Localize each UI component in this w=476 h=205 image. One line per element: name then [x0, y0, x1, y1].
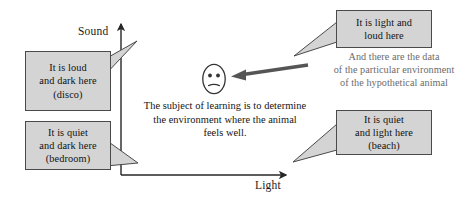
caption-line-1: The subject of learning is to determine — [141, 99, 309, 113]
callout-beach-line-2: and light here — [355, 126, 413, 139]
callout-beach-line-1: It is quiet — [364, 113, 404, 126]
diagram-canvas: Sound Light It is loud and dark here (di… — [0, 0, 476, 205]
callout-light-and-loud-line-1: It is light and — [356, 16, 412, 29]
callout-bedroom[interactable]: It is quiet and dark here (bedroom) — [25, 121, 111, 170]
x-axis-label: Light — [255, 179, 281, 191]
callout-bedroom-line-1: It is quiet — [48, 126, 88, 139]
callout-bedroom-line-2: and dark here — [39, 139, 96, 152]
callout-bedroom-line-3: (bedroom) — [46, 152, 90, 165]
callout-beach-line-3: (beach) — [368, 139, 400, 152]
caption-line-3: feels well. — [141, 126, 309, 140]
y-axis-label: Sound — [78, 25, 108, 37]
callout-beach[interactable]: It is quiet and light here (beach) — [336, 110, 432, 155]
caption-line-2: the environment where the animal — [141, 113, 309, 127]
callout-disco-line-2: and dark here — [39, 74, 96, 87]
callout-disco-line-3: (disco) — [53, 88, 82, 101]
callout-disco[interactable]: It is loud and dark here (disco) — [25, 51, 111, 111]
annotation-line-1: And there are the data — [318, 50, 470, 63]
diagram-annotation: And there are the data of the particular… — [318, 50, 470, 89]
neutral-face-icon — [201, 63, 227, 95]
diagram-caption: The subject of learning is to determine … — [141, 99, 309, 140]
pointer-arrow-to-face — [231, 65, 308, 81]
callout-light-and-loud-line-2: loud here — [364, 29, 404, 42]
callout-disco-line-1: It is loud — [49, 61, 87, 74]
callout-light-and-loud[interactable]: It is light and loud here — [336, 10, 432, 48]
annotation-line-2: of the particular environment — [318, 63, 470, 76]
annotation-line-3: of the hypothetical animal — [318, 76, 470, 89]
